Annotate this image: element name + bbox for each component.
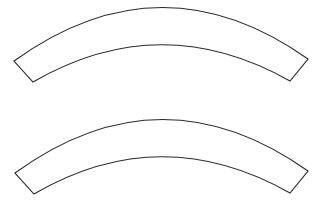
- diagram-canvas: [0, 0, 320, 207]
- arc-band-top: [0, 0, 320, 100]
- arc-band-bottom-outline: [15, 119, 308, 194]
- arc-band-bottom: [0, 112, 320, 207]
- arc-band-top-outline: [14, 7, 308, 82]
